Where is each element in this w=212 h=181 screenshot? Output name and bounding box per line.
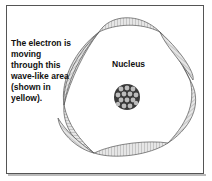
nucleus-label: Nucleus — [112, 59, 145, 69]
figure-caption: The electron is moving through this wave… — [11, 38, 71, 104]
nucleus-icon — [114, 84, 140, 110]
